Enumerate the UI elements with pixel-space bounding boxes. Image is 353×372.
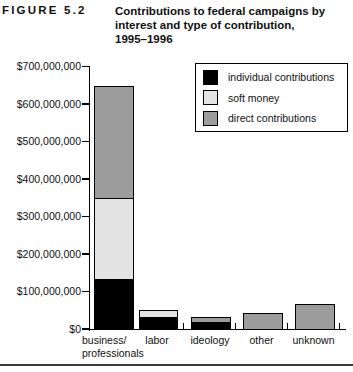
legend-label-individual-contributions: individual contributions (228, 71, 334, 83)
bar-1 (94, 86, 134, 330)
bottom-rule (0, 364, 353, 366)
bar-segment-direct-contributions (95, 87, 133, 198)
y-axis-tick-label: $300,000,000 (0, 210, 81, 222)
bar-segment-individual-contributions (95, 279, 133, 330)
legend-item-soft-money: soft money (196, 90, 347, 105)
y-axis-tick (82, 178, 89, 179)
chart-area: $0$100,000,000$200,000,000$300,000,000$4… (0, 0, 353, 372)
bar-4 (243, 313, 283, 330)
soft-money-swatch (203, 90, 218, 105)
y-axis-tick (82, 141, 89, 142)
figure-page: FIGURE 5.2 Contributions to federal camp… (0, 0, 353, 372)
y-axis-tick (82, 103, 89, 104)
x-axis-tick (287, 323, 288, 330)
y-axis-tick-label: $100,000,000 (0, 285, 81, 297)
y-axis-line (89, 66, 91, 331)
legend-label-soft-money: soft money (228, 92, 279, 104)
x-axis-tick (339, 323, 340, 330)
y-axis-tick (82, 291, 89, 292)
x-category-label-line: professionals (82, 347, 144, 360)
legend-item-direct-contributions: direct contributions (196, 111, 347, 126)
direct-contributions-swatch (203, 111, 218, 126)
bar-segment-individual-contributions (140, 317, 178, 330)
y-axis-tick (82, 66, 89, 67)
y-axis-tick-label: $600,000,000 (0, 98, 81, 110)
y-axis-tick (82, 253, 89, 254)
x-category-label-line: unknown (274, 334, 353, 347)
bar-3 (191, 317, 231, 330)
bar-segment-direct-contributions (296, 305, 334, 329)
x-axis-tick (183, 323, 184, 330)
individual-contributions-swatch (203, 70, 218, 85)
y-axis-tick-label: $200,000,000 (0, 248, 81, 260)
bar-5 (295, 304, 335, 330)
legend: individual contributions soft money dire… (195, 63, 348, 132)
x-axis-tick (235, 323, 236, 330)
y-axis-tick (82, 328, 89, 329)
legend-label-direct-contributions: direct contributions (228, 112, 316, 124)
bar-segment-direct-contributions (244, 314, 282, 329)
x-category-label-5: unknown (274, 334, 353, 347)
bar-segment-soft-money (95, 198, 133, 280)
bar-2 (139, 310, 179, 330)
y-axis-tick-label: $400,000,000 (0, 173, 81, 185)
y-axis-tick-label: $500,000,000 (0, 135, 81, 147)
y-axis-tick-label: $700,000,000 (0, 60, 81, 72)
bar-segment-individual-contributions (192, 322, 230, 330)
y-axis-tick-label: $0 (0, 323, 81, 335)
y-axis-tick (82, 216, 89, 217)
legend-item-individual-contributions: individual contributions (196, 70, 347, 85)
